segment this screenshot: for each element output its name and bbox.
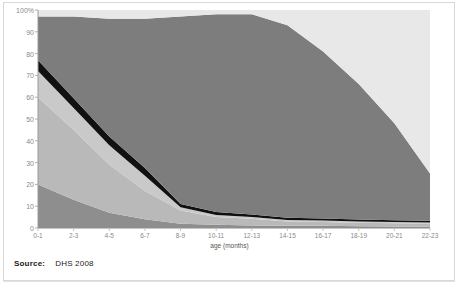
chart-figure: 0102030405060708090100% 0-12-34-56-78-91… <box>0 0 459 286</box>
x-tick-label: 10-11 <box>208 232 224 239</box>
y-tick-label: 70 <box>26 72 34 79</box>
x-tick-label: 4-5 <box>105 232 114 239</box>
y-tick-label: 40 <box>26 137 34 144</box>
bottom-divider <box>3 281 455 282</box>
x-axis-title: age (months) <box>0 242 459 249</box>
x-tick-label: 6-7 <box>140 232 149 239</box>
x-tick-label: 16-17 <box>315 232 332 239</box>
x-tick-label: 14-15 <box>279 232 296 239</box>
y-tick-label: 50 <box>26 116 34 123</box>
y-tick-label: 80 <box>26 50 34 57</box>
y-tick-label: 20 <box>26 181 34 188</box>
x-tick-label: 2-3 <box>69 232 78 239</box>
x-tick-label: 18-19 <box>350 232 367 239</box>
y-tick-label: 90 <box>26 28 34 35</box>
y-tick-label: 0 <box>30 225 34 232</box>
y-axis-tick-labels: 0102030405060708090100% <box>6 0 34 250</box>
area-bands-group <box>38 10 430 228</box>
x-tick-label: 0-1 <box>33 232 42 239</box>
x-tick-label: 22-23 <box>422 232 439 239</box>
source-note: Source:DHS 2008 <box>14 259 94 268</box>
stacked-area-plot <box>0 0 459 250</box>
y-tick-label: 30 <box>26 159 34 166</box>
x-tick-label: 20-21 <box>386 232 403 239</box>
y-tick-label: 100% <box>16 7 34 14</box>
source-value: DHS 2008 <box>55 259 94 268</box>
y-tick-label: 60 <box>26 94 34 101</box>
y-tick-label: 10 <box>26 203 34 210</box>
x-tick-label: 12-13 <box>244 232 261 239</box>
chart-plot-container: 0102030405060708090100% 0-12-34-56-78-91… <box>0 0 459 250</box>
x-tick-label: 8-9 <box>176 232 185 239</box>
source-label: Source: <box>14 259 45 268</box>
